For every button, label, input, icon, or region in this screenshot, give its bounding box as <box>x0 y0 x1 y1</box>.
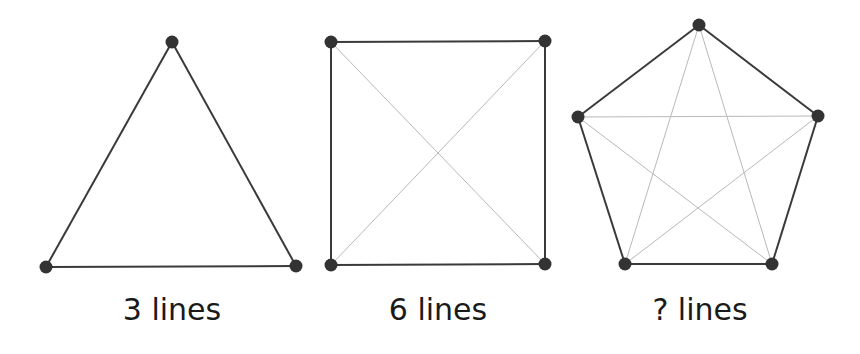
vertex-dot <box>572 111 585 124</box>
vertex-dot <box>290 260 303 273</box>
edge-line <box>331 41 545 42</box>
vertex-dot <box>766 258 779 271</box>
vertex-dot <box>539 258 552 271</box>
triangle-figure <box>40 36 303 274</box>
edge-line <box>46 266 296 267</box>
edge-line <box>172 42 296 266</box>
diagonal-line <box>625 116 818 264</box>
edge-line <box>699 25 818 116</box>
edge-line <box>331 264 545 265</box>
square-figure <box>325 35 552 272</box>
edge-line <box>578 25 699 117</box>
triangle-label: 3 lines <box>123 292 221 327</box>
diagonal-line <box>578 116 818 117</box>
diagonal-line <box>699 25 772 264</box>
vertex-dot <box>812 110 825 123</box>
vertex-dot <box>539 35 552 48</box>
diagonal-line <box>625 25 699 264</box>
vertex-dot <box>166 36 179 49</box>
vertex-dot <box>619 258 632 271</box>
vertex-dot <box>40 261 53 274</box>
square-label: 6 lines <box>389 292 487 327</box>
edge-line <box>46 42 172 267</box>
diagonal-line <box>578 117 772 264</box>
vertex-dot <box>325 259 338 272</box>
edge-line <box>578 117 625 264</box>
edge-line <box>772 116 818 264</box>
pentagon-figure <box>572 19 825 271</box>
pentagon-label: ? lines <box>652 292 747 327</box>
vertex-dot <box>325 36 338 49</box>
vertex-dot <box>693 19 706 32</box>
